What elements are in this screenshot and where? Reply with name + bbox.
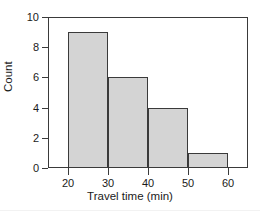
x-axis-tick-label: 40 [142,178,154,189]
x-axis-title: Travel time (min) [0,190,260,202]
histogram-bar [188,153,228,168]
y-axis-tick [42,47,48,48]
y-axis-tick [42,108,48,109]
y-axis-title: Count [2,61,14,92]
y-axis-tick-label: 10 [27,12,39,23]
histogram-bar [108,77,148,168]
y-axis-tick [42,77,48,78]
x-axis-tick [148,168,149,175]
histogram-bar [68,32,108,168]
y-axis-tick-label: 6 [33,72,39,83]
x-axis-tick-label: 30 [102,178,114,189]
x-axis-tick [188,168,189,175]
x-axis-tick-label: 60 [222,178,234,189]
y-axis-tick [42,168,48,169]
y-axis-tick-label: 0 [33,163,39,174]
x-axis-tick-label: 50 [182,178,194,189]
y-axis-tick [42,138,48,139]
x-axis-tick [108,168,109,175]
y-axis-tick [42,17,48,18]
y-axis-tick-label: 4 [33,102,39,113]
y-axis-tick-label: 2 [33,132,39,143]
y-axis-tick-label: 8 [33,42,39,53]
x-axis-tick [228,168,229,175]
x-axis-tick [68,168,69,175]
histogram-figure: 0246810 Count 2030405060 Travel time (mi… [0,0,260,214]
page-edge-artifact [0,210,260,211]
x-axis-tick-label: 20 [62,178,74,189]
histogram-bar [148,108,188,168]
